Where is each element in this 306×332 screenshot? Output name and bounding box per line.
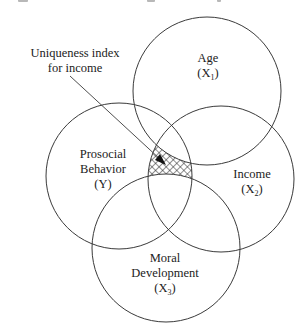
- label-age-symbol: (X1): [197, 66, 218, 82]
- label-behavior: Behavior: [80, 162, 127, 176]
- label-moral-symbol: (X3): [154, 281, 175, 297]
- label-development: Development: [131, 266, 199, 280]
- venn-diagram: Uniqueness index for income Age (X1) Pro…: [0, 0, 306, 332]
- annotation-line-2: for income: [48, 61, 103, 75]
- label-prosocial-symbol: (Y): [94, 177, 111, 191]
- label-age: Age: [198, 51, 219, 65]
- annotation-line-1: Uniqueness index: [30, 46, 120, 60]
- label-prosocial: Prosocial: [80, 147, 127, 161]
- circle-age: [133, 17, 281, 165]
- label-income: Income: [233, 167, 271, 181]
- label-income-symbol: (X2): [241, 182, 262, 198]
- label-moral: Moral: [150, 251, 181, 265]
